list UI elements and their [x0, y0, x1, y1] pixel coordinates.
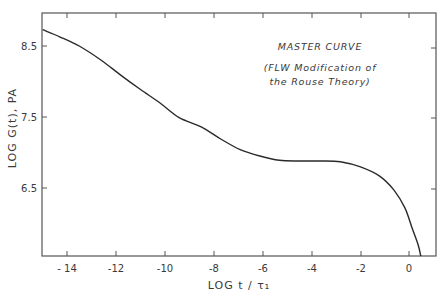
x-tick-labels: - 14 -12 -10 -8 -6 -4 -2 0 [57, 263, 412, 274]
y-axis-label: LOG G(t), PA [6, 88, 19, 168]
x-tick-label: -8 [209, 263, 219, 274]
x-tick-label: -12 [108, 263, 124, 274]
x-tick-label: -4 [307, 263, 317, 274]
x-ticks-top [67, 13, 409, 18]
y-ticks-right [431, 48, 436, 189]
y-tick-labels: 8.5 7.5 6.5 [21, 41, 37, 194]
plot-frame [42, 13, 436, 256]
y-ticks-left [42, 46, 47, 188]
annotation: MASTER CURVE (FLW Modification of the Ro… [264, 41, 377, 87]
x-tick-label: -2 [356, 263, 366, 274]
annotation-line2: the Rouse Theory) [269, 76, 370, 87]
annotation-title: MASTER CURVE [278, 41, 362, 52]
x-tick-label: -6 [258, 263, 268, 274]
x-ticks-bottom [67, 251, 409, 256]
x-tick-label: -10 [157, 263, 173, 274]
annotation-line1: (FLW Modification of [264, 62, 377, 73]
x-tick-label: 0 [406, 263, 412, 274]
x-axis-label: LOG t / τ₁ [208, 279, 270, 291]
y-tick-label: 6.5 [21, 183, 37, 194]
y-tick-label: 7.5 [21, 112, 37, 123]
x-tick-label: - 14 [57, 263, 77, 274]
chart: - 14 -12 -10 -8 -6 -4 -2 0 8.5 7.5 6.5 L… [0, 0, 444, 291]
y-tick-label: 8.5 [21, 41, 37, 52]
